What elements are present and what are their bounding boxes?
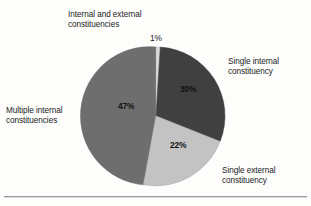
slice-label-single-internal: Single internal constituency xyxy=(228,57,310,78)
slice-label-internal-and-external: Internal and external constituencies xyxy=(68,10,184,31)
slice-label-single-external: Single external constituency xyxy=(222,166,310,187)
slice-value-single-external: 22% xyxy=(170,140,186,150)
slice-value-single-internal: 30% xyxy=(180,84,196,94)
pie-chart-figure: Internal and external constituencies Sin… xyxy=(0,0,311,206)
pie-slice-multiple-internal[interactable] xyxy=(81,47,156,185)
footer-divider-shadow xyxy=(4,197,307,198)
slice-label-multiple-internal: Multiple internal constituencies xyxy=(6,106,90,127)
slice-value-multiple-internal: 47% xyxy=(118,101,134,111)
slice-value-internal-and-external: 1% xyxy=(150,33,162,43)
